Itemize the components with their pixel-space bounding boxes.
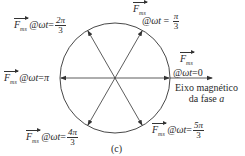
vector-wt-pi-3	[115, 31, 142, 78]
vector-wt-5pi-3	[115, 78, 142, 125]
vector-f-symbol: Fms	[152, 122, 165, 137]
label-wt-0: Fms	[180, 51, 193, 66]
label-wt-2pi-3: Fms @ωt=2π3	[14, 16, 66, 36]
label-wt-pi: Fms @ωt=π	[4, 70, 49, 85]
label-wt-5pi-3: Fms @ωt=5π3	[152, 121, 204, 141]
vector-f-symbol: Fms	[26, 129, 39, 144]
label-wt-pi-3-eq: @ωt = π3	[142, 12, 179, 32]
figure-caption: (c)	[111, 144, 122, 154]
label-wt-4pi-3: Fms @ωt=4π3	[26, 128, 78, 148]
phase-a-axis-label: Eixo magnético da fase a	[175, 82, 238, 104]
vector-wt-4pi-3	[88, 78, 115, 125]
vector-f-symbol: Fms	[14, 17, 27, 32]
vector-wt-2pi-3	[88, 31, 115, 78]
label-wt-0-eq: @ωt=0	[173, 68, 203, 78]
vector-f-symbol: Fms	[180, 51, 193, 66]
vector-f-symbol: Fms	[4, 70, 17, 85]
